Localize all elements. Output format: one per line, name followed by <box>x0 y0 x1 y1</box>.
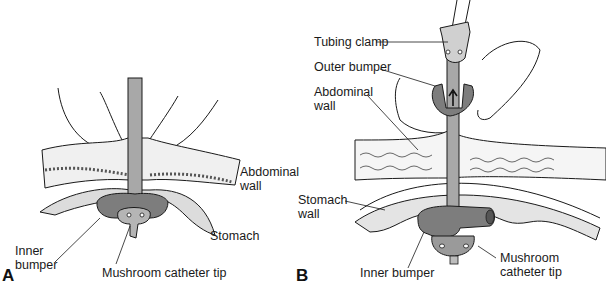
label-mushroom-tip-a: Mushroom catheter tip <box>102 266 226 280</box>
panel-a: Abdominal wall Stomach Inner bumper Mush… <box>0 0 300 289</box>
panel-letter-a: A <box>2 266 14 286</box>
panel-b: Tubing clamp Outer bumper Abdominal wall… <box>300 0 606 289</box>
label-stomach-wall: Stomach <box>298 193 347 207</box>
label-abdominal-wall-b: Abdominal <box>314 85 373 99</box>
panel-letter-b: B <box>296 266 308 286</box>
label-abdominal-wall-b-2: wall <box>314 99 336 113</box>
label-abdominal-wall-a-2: wall <box>240 179 262 193</box>
label-stomach-wall-2: wall <box>298 207 320 221</box>
label-mushroom-tip-b: Mushroom <box>500 251 559 265</box>
label-stomach-a: Stomach <box>210 229 259 243</box>
label-outer-bumper: Outer bumper <box>314 60 391 74</box>
label-inner-bumper-b: Inner bumper <box>360 266 434 280</box>
label-mushroom-tip-b-2: catheter tip <box>500 265 562 279</box>
panel-a-illustration <box>0 0 300 289</box>
label-inner-bumper-a: Inner <box>15 244 44 258</box>
label-inner-bumper-a-2: bumper <box>15 258 57 272</box>
label-tubing-clamp: Tubing clamp <box>314 35 389 49</box>
label-abdominal-wall-a: Abdominal <box>240 165 299 179</box>
